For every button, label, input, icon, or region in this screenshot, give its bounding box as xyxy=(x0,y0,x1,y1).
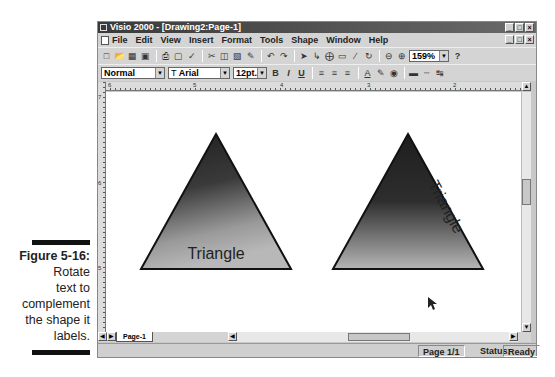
font-size-select[interactable]: 12pt. ▼ xyxy=(233,67,267,79)
caption-line: the shape it xyxy=(0,312,90,328)
vertical-ruler: 7 6 5 xyxy=(98,82,106,332)
chevron-down-icon[interactable]: ▼ xyxy=(439,51,448,61)
pointer-tool-icon[interactable]: ➤ xyxy=(298,51,309,62)
ruler-label: 3 xyxy=(367,82,370,88)
cut-icon[interactable]: ✂ xyxy=(206,51,217,62)
ruler-label: 4 xyxy=(280,82,283,88)
menu-file[interactable]: File xyxy=(112,35,128,45)
save-icon[interactable]: ▣ xyxy=(140,51,151,62)
menu-bar: File Edit View Insert Format Tools Shape… xyxy=(98,33,536,47)
style-select[interactable]: Normal ▼ xyxy=(101,67,165,79)
line-weight-icon[interactable]: ▬ xyxy=(408,68,419,79)
mouse-pointer-icon xyxy=(428,297,437,310)
close-button[interactable]: × xyxy=(525,23,534,32)
doc-restore-button[interactable]: □ xyxy=(515,35,524,44)
help-button[interactable]: ? xyxy=(452,51,463,62)
stencil-icon[interactable]: ▦ xyxy=(127,51,138,62)
font-select[interactable]: T Arial ▼ xyxy=(168,67,230,79)
vertical-scrollbar[interactable]: ▼ xyxy=(521,92,531,332)
caption-line: Rotate xyxy=(0,264,90,280)
connection-point-icon[interactable]: ⨁ xyxy=(324,51,335,62)
ruler-label: 5 xyxy=(193,82,196,88)
document-icon[interactable] xyxy=(101,36,109,45)
horizontal-scroll-thumb[interactable] xyxy=(348,333,410,341)
title-bar: Visio 2000 - [Drawing2:Page-1] _ □ × xyxy=(98,22,536,33)
rectangle-tool-icon[interactable]: ▭ xyxy=(337,51,348,62)
ruler-label: 7 xyxy=(98,94,101,100)
caption-line: complement xyxy=(0,296,90,312)
truetype-icon: T xyxy=(171,68,177,78)
triangle-shape-1[interactable]: Triangle xyxy=(141,134,291,269)
scroll-left-arrow[interactable]: ◀ xyxy=(228,332,237,341)
caption-line: text to xyxy=(0,280,90,296)
scroll-right-arrow[interactable]: ▶ xyxy=(509,332,518,341)
menu-window[interactable]: Window xyxy=(326,35,360,45)
zoom-select[interactable]: 159% ▼ xyxy=(409,50,449,62)
undo-icon[interactable]: ↶ xyxy=(265,51,276,62)
tab-page-1[interactable]: Page-1 xyxy=(116,332,153,342)
menu-insert[interactable]: Insert xyxy=(189,35,214,45)
format-painter-icon[interactable]: ✎ xyxy=(245,51,256,62)
format-toolbar: Normal ▼ T Arial ▼ 12pt. ▼ B I U ≡ ≡ ≡ A… xyxy=(98,64,536,81)
open-icon[interactable]: 📂 xyxy=(114,51,125,62)
toolbar-separator xyxy=(261,50,262,62)
underline-button[interactable]: U xyxy=(296,68,307,79)
toolbar-separator xyxy=(156,50,157,62)
chevron-down-icon[interactable]: ▼ xyxy=(220,68,229,78)
spelling-icon[interactable]: ✓ xyxy=(186,51,197,62)
connector-tool-icon[interactable]: ↳ xyxy=(311,51,322,62)
menu-view[interactable]: View xyxy=(161,35,181,45)
visio-app-icon xyxy=(100,24,107,31)
horizontal-scrollbar[interactable]: ◀ ▶ xyxy=(228,332,518,342)
drawing-canvas[interactable]: Triangle Triangle xyxy=(106,92,521,332)
text-color-icon[interactable]: A xyxy=(362,68,373,79)
doc-close-button[interactable]: × xyxy=(525,35,534,44)
menu-format[interactable]: Format xyxy=(221,35,252,45)
paste-icon[interactable]: ▧ xyxy=(232,51,243,62)
redo-icon[interactable]: ↷ xyxy=(278,51,289,62)
scroll-down-arrow[interactable]: ▼ xyxy=(522,323,531,332)
doc-minimize-button[interactable]: _ xyxy=(505,35,514,44)
line-pattern-icon[interactable]: ┄ xyxy=(421,68,432,79)
print-icon[interactable]: ⎙ xyxy=(160,51,171,62)
align-left-icon[interactable]: ≡ xyxy=(316,68,327,79)
line-tool-icon[interactable]: ∕ xyxy=(350,51,361,62)
chevron-down-icon[interactable]: ▼ xyxy=(155,68,164,78)
new-icon[interactable]: □ xyxy=(101,51,112,62)
chevron-down-icon[interactable]: ▼ xyxy=(257,68,266,78)
style-value: Normal xyxy=(104,68,135,78)
triangle-shape-2[interactable]: Triangle xyxy=(333,134,483,269)
align-center-icon[interactable]: ≡ xyxy=(329,68,340,79)
ruler-label: 6 xyxy=(108,82,111,88)
visio-window: Visio 2000 - [Drawing2:Page-1] _ □ × Fil… xyxy=(97,21,537,358)
ruler-label: 2 xyxy=(453,82,456,88)
next-page-arrow[interactable]: ▶ xyxy=(107,332,116,341)
print-preview-icon[interactable]: ▢ xyxy=(173,51,184,62)
maximize-button[interactable]: □ xyxy=(515,23,524,32)
scroll-up-arrow[interactable]: ▲ xyxy=(522,82,531,91)
minimize-button[interactable]: _ xyxy=(505,23,514,32)
window-title: Visio 2000 - [Drawing2:Page-1] xyxy=(110,22,241,32)
caption-top-rule xyxy=(32,240,90,245)
copy-icon[interactable]: ◫ xyxy=(219,51,230,62)
zoom-out-icon[interactable]: ⊖ xyxy=(383,51,394,62)
bold-button[interactable]: B xyxy=(270,68,281,79)
toolbar-separator xyxy=(294,50,295,62)
toolbar-separator xyxy=(404,67,405,79)
toolbar-separator xyxy=(379,50,380,62)
triangle-label-horizontal[interactable]: Triangle xyxy=(187,245,244,262)
menu-help[interactable]: Help xyxy=(369,35,389,45)
font-value: Arial xyxy=(179,68,199,78)
rotation-tool-icon[interactable]: ↻ xyxy=(363,51,374,62)
line-color-icon[interactable]: ✎ xyxy=(375,68,386,79)
fill-color-icon[interactable]: ◉ xyxy=(388,68,399,79)
zoom-in-icon[interactable]: ⊕ xyxy=(396,51,407,62)
menu-shape[interactable]: Shape xyxy=(291,35,318,45)
italic-button[interactable]: I xyxy=(283,68,294,79)
menu-edit[interactable]: Edit xyxy=(136,35,153,45)
prev-page-arrow[interactable]: ◀ xyxy=(98,332,107,341)
vertical-scroll-thumb[interactable] xyxy=(522,179,531,205)
align-right-icon[interactable]: ≡ xyxy=(342,68,353,79)
line-ends-icon[interactable]: ↹ xyxy=(434,68,445,79)
menu-tools[interactable]: Tools xyxy=(260,35,283,45)
